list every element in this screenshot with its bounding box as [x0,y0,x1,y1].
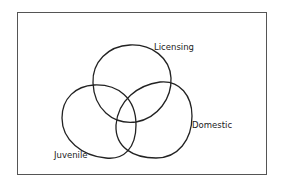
licensing-label: Licensing [154,42,194,52]
domestic-set [116,82,192,158]
venn-diagram: Licensing Domestic Juvenile [0,0,282,188]
domestic-label: Domestic [192,120,232,130]
juvenile-label: Juvenile [53,150,88,160]
licensing-set [93,45,171,122]
